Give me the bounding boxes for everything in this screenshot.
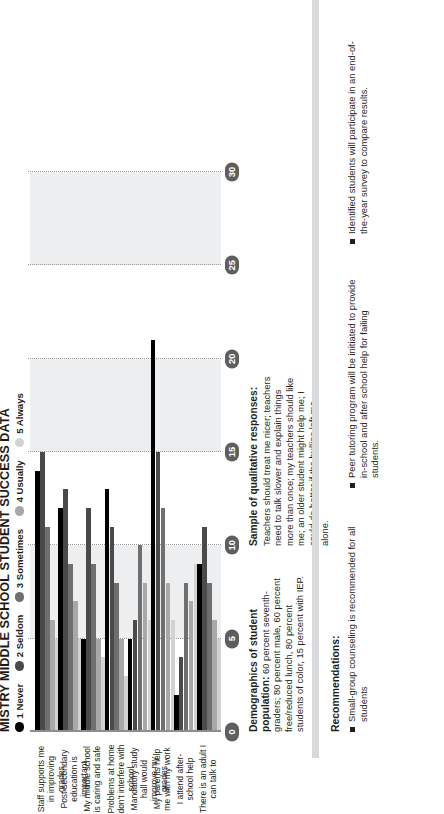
chart-bar xyxy=(63,489,68,732)
chart-category-label: My parents help me with my work xyxy=(152,744,172,814)
chart-axis-tick: 15 xyxy=(225,443,239,462)
list-item: Small-group counseling is recommended fo… xyxy=(346,514,381,732)
chart-bar xyxy=(179,657,184,732)
chart-bar xyxy=(50,620,55,732)
legend-item-2: 2 Seldom xyxy=(14,615,25,671)
chart-axis-tick: 10 xyxy=(225,536,239,555)
chart-category-label: My middle school is caring and safe xyxy=(82,744,102,814)
recommendations-heading: Recommendations: xyxy=(330,20,341,732)
student-success-bar-chart: 051015202530 Staff supports me in improv… xyxy=(34,172,219,732)
chart-bar xyxy=(207,583,212,732)
chart-bar xyxy=(189,601,194,732)
chart-bar xyxy=(138,545,143,732)
chart-gridline xyxy=(28,171,221,172)
legend-label-5-always: 5 Always xyxy=(14,393,25,434)
chart-bar xyxy=(105,489,110,732)
legend-label-2-seldom: 2 Seldom xyxy=(14,615,25,658)
chart-baseline-axis xyxy=(30,730,221,732)
chart-background-band xyxy=(30,172,221,265)
chart-legend: 1 Never 2 Seldom 3 Sometimes 4 Usually 5… xyxy=(14,393,25,732)
chart-bar xyxy=(197,564,202,732)
chart-bar xyxy=(86,508,91,732)
chart-bar xyxy=(143,583,148,732)
chart-gridline xyxy=(28,264,221,265)
chart-gridline xyxy=(28,358,221,359)
chart-category-label: There is an adult I can talk to xyxy=(198,744,218,814)
chart-bar xyxy=(133,620,138,732)
chart-bar xyxy=(73,601,78,732)
chart-bar xyxy=(58,508,63,732)
chart-bar xyxy=(151,340,156,732)
chart-bar xyxy=(174,695,179,732)
legend-label-3-sometimes: 3 Sometimes xyxy=(14,529,25,588)
chart-bar xyxy=(166,583,171,732)
chart-axis-tick: 0 xyxy=(225,723,239,742)
chart-axis-tick: 20 xyxy=(225,349,239,368)
chart-bar xyxy=(161,508,166,732)
bullet-square-icon xyxy=(350,239,355,244)
chart-bar xyxy=(128,639,133,732)
page-title: MISTRY MIDDLE SCHOOL STUDENT SUCCESS DAT… xyxy=(0,408,12,732)
chart-bar xyxy=(40,452,45,732)
chart-bar xyxy=(114,583,119,732)
chart-bar xyxy=(96,639,101,732)
recommendation-text: Peer tutoring program will be initiated … xyxy=(346,270,381,478)
chart-bar xyxy=(156,452,161,732)
chart-gridline xyxy=(28,451,221,452)
chart-plot-area xyxy=(34,172,219,732)
recommendations-block: Recommendations: Small-group counseling … xyxy=(330,20,381,732)
recommendation-text: Small-group counseling is recommended fo… xyxy=(346,514,381,722)
chart-bar xyxy=(217,639,222,732)
chart-bar xyxy=(202,527,207,732)
legend-swatch-4-usually xyxy=(15,506,25,516)
legend-swatch-2-seldom xyxy=(15,661,25,671)
chart-bar xyxy=(68,564,73,732)
bullet-square-icon xyxy=(350,727,355,732)
qualitative-heading: Sample of qualitative responses: xyxy=(248,374,260,546)
list-item: Identified students will participate in … xyxy=(346,26,381,244)
section-divider xyxy=(312,0,319,758)
legend-item-1: 1 Never xyxy=(14,684,25,732)
legend-swatch-1-never xyxy=(15,723,25,733)
bullet-square-icon xyxy=(350,483,355,488)
legend-item-4: 4 Usually xyxy=(14,460,25,516)
recommendations-list: Small-group counseling is recommended fo… xyxy=(346,20,381,732)
recommendation-text: Identified students will participate in … xyxy=(346,26,381,234)
legend-label-4-usually: 4 Usually xyxy=(14,460,25,502)
legend-swatch-3-sometimes xyxy=(15,592,25,602)
chart-bar xyxy=(45,527,50,732)
chart-axis-tick: 5 xyxy=(225,629,239,648)
list-item: Peer tutoring program will be initiated … xyxy=(346,270,381,488)
chart-category-label: I attend after-school help xyxy=(175,744,195,814)
chart-background-band xyxy=(30,359,221,452)
legend-item-5: 5 Always xyxy=(14,393,25,447)
chart-bar xyxy=(110,527,115,732)
legend-label-1-never: 1 Never xyxy=(14,684,25,719)
chart-axis-tick: 30 xyxy=(225,163,239,182)
chart-gridline xyxy=(28,544,221,545)
chart-bar xyxy=(81,639,86,732)
chart-bar xyxy=(91,564,96,732)
chart-bar xyxy=(119,639,124,732)
chart-bar xyxy=(35,471,40,732)
demographics-block: Demographics of student population: 60 p… xyxy=(248,572,306,732)
legend-item-3: 3 Sometimes xyxy=(14,529,25,602)
legend-swatch-5-always xyxy=(15,438,25,448)
qualitative-body: Teachers should treat me nicer; teachers… xyxy=(261,377,330,546)
chart-bar xyxy=(212,620,217,732)
chart-axis-tick: 25 xyxy=(225,256,239,275)
chart-bar xyxy=(184,583,189,732)
